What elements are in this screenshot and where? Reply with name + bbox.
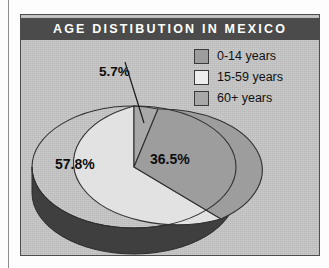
page-title: AGE DISTIBUTION IN MEXICO xyxy=(53,22,287,36)
chart-panel: AGE DISTIBUTION IN MEXICO xyxy=(20,14,320,256)
chart-screenshot: AGE DISTIBUTION IN MEXICO xyxy=(0,0,329,268)
chart-legend: 0-14 years 15-59 years 60+ years xyxy=(194,46,283,109)
legend-swatch-icon-0-14-years xyxy=(194,49,209,64)
legend-label-0-14-years: 0-14 years xyxy=(217,49,276,63)
legend-swatch-icon-15-59-years xyxy=(194,70,209,85)
pie-label-0-14-years: 36.5% xyxy=(150,151,190,167)
legend-label-60-plus-years: 60+ years xyxy=(217,91,272,105)
chart-title-bar: AGE DISTIBUTION IN MEXICO xyxy=(21,18,319,40)
pie-label-60-plus-years: 5.7% xyxy=(99,64,130,79)
legend-item-0-14-years[interactable]: 0-14 years xyxy=(194,46,283,66)
legend-item-60-plus-years[interactable]: 60+ years xyxy=(194,88,283,108)
legend-label-15-59-years: 15-59 years xyxy=(217,70,283,84)
legend-swatch-icon-60-plus-years xyxy=(194,91,209,106)
legend-item-15-59-years[interactable]: 15-59 years xyxy=(194,67,283,87)
page-gutter-rule xyxy=(8,0,9,268)
pie-label-15-59-years: 57.8% xyxy=(55,156,95,172)
